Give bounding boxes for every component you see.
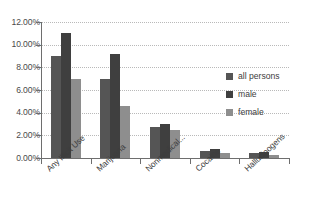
- bar[interactable]: [269, 155, 279, 158]
- y-tick-label: 12.00%: [0, 18, 40, 27]
- y-tick-label: 2.00%: [0, 131, 40, 140]
- x-tick-mark: [190, 158, 191, 164]
- y-tick-label: 6.00%: [0, 86, 40, 95]
- x-tick-mark: [41, 158, 42, 164]
- legend-label: female: [238, 108, 264, 117]
- x-tick-mark: [239, 158, 240, 164]
- x-tick-mark: [140, 158, 141, 164]
- y-tick-label: 8.00%: [0, 63, 40, 72]
- y-tick-label: 10.00%: [0, 40, 40, 49]
- y-tick-label: 4.00%: [0, 108, 40, 117]
- legend-item-all-persons[interactable]: all persons: [226, 72, 280, 81]
- bar[interactable]: [220, 153, 230, 158]
- bar[interactable]: [51, 56, 61, 158]
- bar[interactable]: [61, 33, 71, 158]
- bar[interactable]: [100, 79, 110, 158]
- legend-item-male[interactable]: male: [226, 90, 280, 99]
- y-tick-label: 0.00%: [0, 154, 40, 163]
- legend-item-female[interactable]: female: [226, 108, 280, 117]
- bar-chart: 12.00%10.00%8.00%6.00%4.00%2.00%0.00% An…: [0, 0, 317, 212]
- legend-swatch-icon: [226, 109, 233, 116]
- legend-label: male: [238, 90, 257, 99]
- x-tick-mark: [289, 158, 290, 164]
- legend-swatch-icon: [226, 91, 233, 98]
- legend-label: all persons: [238, 72, 280, 81]
- bar-group: [91, 22, 141, 158]
- chart-legend: all persons male female: [226, 72, 280, 126]
- legend-swatch-icon: [226, 73, 233, 80]
- x-tick-mark: [91, 158, 92, 164]
